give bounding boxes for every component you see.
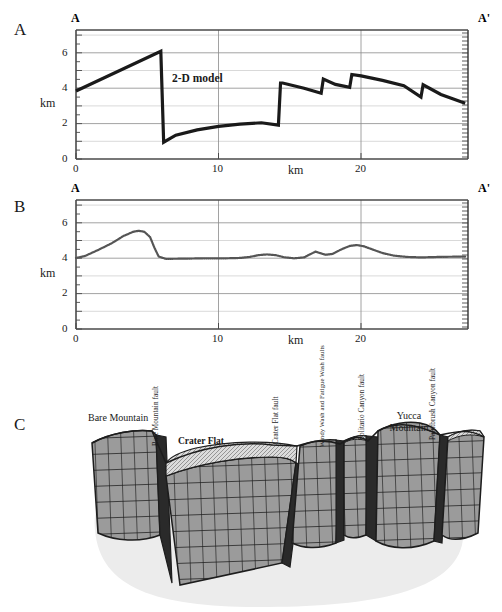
panel-b-left-endpoint-label: A [71, 181, 80, 196]
label-windy-wash-fatigue-wash-faults-line1: Windy Wash and Fatigue Wash faults [318, 345, 325, 447]
panel-a-major-gridlines [76, 30, 468, 159]
panel-b-xtick-20: 20 [355, 332, 366, 344]
windy-wash-fault-plane [336, 440, 344, 543]
panel-b-data-line [76, 231, 465, 259]
label-bare-mountain: Bare Mountain [88, 412, 148, 423]
panel-b-right-edge-ticks [462, 203, 468, 327]
panel-c-block-diagram [0, 345, 502, 612]
fault-block-4 [344, 436, 368, 538]
panel-a-xtick-20: 20 [355, 162, 366, 174]
panel-a-ytick-6: 6 [62, 46, 68, 58]
panel-b-ytick-2: 2 [62, 286, 68, 298]
panel-a-chart [0, 25, 502, 175]
panel-a-left-endpoint-label: A [71, 11, 80, 26]
panel-b-major-gridlines [76, 200, 468, 329]
label-bare-mountain-fault: Bare Mountain fault [152, 386, 160, 446]
panel-b-chart [0, 195, 502, 345]
panel-b-axes [76, 200, 468, 329]
panel-b-svg [0, 195, 502, 345]
label-paintbrush-canyon-fault: Paintbrush Canyon fault [429, 368, 437, 440]
panel-b-y-axis-label: km [40, 266, 55, 281]
panel-b-ytick-0: 0 [62, 322, 68, 334]
label-solitario-canyon-fault: Solitario Canyon fault [358, 374, 366, 440]
fault-block-right [442, 430, 484, 539]
panel-a-xtick-10: 10 [212, 162, 223, 174]
panel-a-xtick-0: 0 [73, 162, 79, 174]
panel-a-right-endpoint-label: A' [478, 11, 490, 26]
fault-block-3 [292, 440, 340, 548]
panel-b-right-endpoint-label: A' [478, 181, 490, 196]
panel-a-model-annotation: 2-D model [172, 72, 223, 84]
panel-c-svg [0, 345, 502, 612]
panel-a-data-line [76, 51, 465, 142]
panel-a-right-edge-ticks [462, 33, 468, 157]
panel-a-ytick-4: 4 [62, 81, 68, 93]
label-crater-flat: Crater Flat [178, 436, 224, 446]
panel-b-ytick-6: 6 [62, 216, 68, 228]
panel-a-y-axis-label: km [40, 96, 55, 111]
label-crater-flat-fault: Crater Flat fault [272, 396, 280, 444]
panel-a-x-axis-label: km [288, 163, 303, 178]
panel-a-axes [76, 30, 468, 159]
fault-block-yucca-mountain [376, 422, 440, 547]
panel-b-x-ticks [76, 323, 361, 329]
panel-b-xtick-10: 10 [212, 332, 223, 344]
panel-a-y-ticks [76, 35, 82, 159]
panel-b-xtick-0: 0 [73, 332, 79, 344]
panel-a-ytick-0: 0 [62, 152, 68, 164]
fault-block-bare-mountain [92, 431, 160, 541]
panel-b-ytick-4: 4 [62, 251, 68, 263]
panel-a-svg [0, 25, 502, 175]
panel-a-x-ticks [76, 153, 361, 159]
panel-a-ytick-2: 2 [62, 116, 68, 128]
panel-b-y-ticks [76, 205, 82, 329]
